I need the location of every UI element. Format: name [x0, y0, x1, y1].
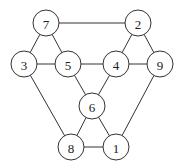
node-label: 8 [68, 141, 75, 156]
graph-diagram: 723549681 [0, 0, 185, 168]
edge-9-1 [116, 64, 160, 147]
edges-layer [24, 23, 160, 147]
node-2: 2 [125, 10, 151, 36]
node-label: 5 [65, 58, 72, 73]
node-label: 3 [21, 58, 28, 73]
node-label: 7 [43, 17, 50, 32]
node-label: 9 [157, 58, 164, 73]
node-6: 6 [79, 93, 105, 119]
node-7: 7 [33, 10, 59, 36]
node-1: 1 [103, 134, 129, 160]
node-5: 5 [55, 51, 81, 77]
node-label: 2 [135, 17, 142, 32]
node-8: 8 [58, 134, 84, 160]
node-label: 6 [89, 100, 96, 115]
node-label: 4 [113, 58, 120, 73]
node-9: 9 [147, 51, 173, 77]
node-3: 3 [11, 51, 37, 77]
node-label: 1 [113, 141, 120, 156]
node-4: 4 [103, 51, 129, 77]
